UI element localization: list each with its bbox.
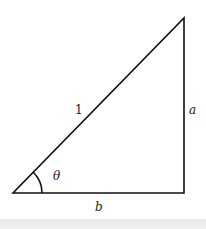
triangle-figure (0, 0, 206, 229)
hypotenuse-label: 1 (75, 104, 83, 116)
right-triangle (13, 18, 184, 193)
angle-theta-label: θ (53, 170, 60, 182)
angle-arc (34, 173, 43, 194)
side-a-label: a (189, 104, 196, 116)
side-b-label: b (95, 201, 103, 213)
triangle-diagram: 1 a θ b (0, 0, 206, 229)
bottom-separator-strip (0, 219, 206, 229)
